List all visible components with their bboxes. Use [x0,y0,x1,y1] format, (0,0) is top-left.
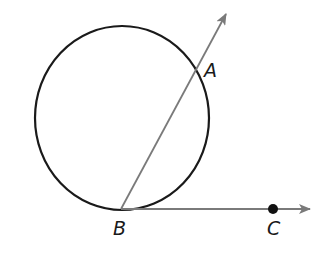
point-C-dot [268,204,278,214]
label-A: A [202,59,217,81]
label-C: C [267,217,281,239]
label-B: B [113,217,126,239]
geometry-diagram: A B C [0,0,335,259]
circle [35,26,209,210]
